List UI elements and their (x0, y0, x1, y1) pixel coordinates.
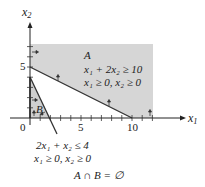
x-tick-label-0: 0 (20, 122, 26, 133)
y-axis-label-subscript: 2 (27, 11, 31, 20)
region-b-constraint-1: 2x₁ + x₂ ≤ 4 (36, 140, 89, 151)
region-b-constraint-2: x₁ ≥ 0, x₂ ≥ 0 (34, 153, 91, 164)
x-tick-label-5: 5 (78, 122, 84, 133)
y-axis-label: x2 (22, 6, 32, 20)
region-a-constraint-2: x₁ ≥ 0, x₂ ≥ 0 (84, 77, 141, 88)
x-axis-arrow-icon (180, 116, 186, 121)
x-axis-label: x1 (188, 112, 198, 126)
x-tick-label-10: 10 (127, 122, 138, 133)
intersection-caption: A ∩ B = ∅ (74, 170, 124, 181)
diagram-canvas (0, 0, 205, 187)
y-tick-label-5: 5 (20, 61, 26, 72)
region-a-label: A (84, 50, 91, 61)
y-axis-arrow-icon (28, 22, 33, 28)
region-b-label: B (36, 104, 43, 115)
x-axis-label-subscript: 1 (193, 117, 197, 126)
region-a-constraint-1: x₁ + 2x₂ ≥ 10 (84, 64, 142, 75)
